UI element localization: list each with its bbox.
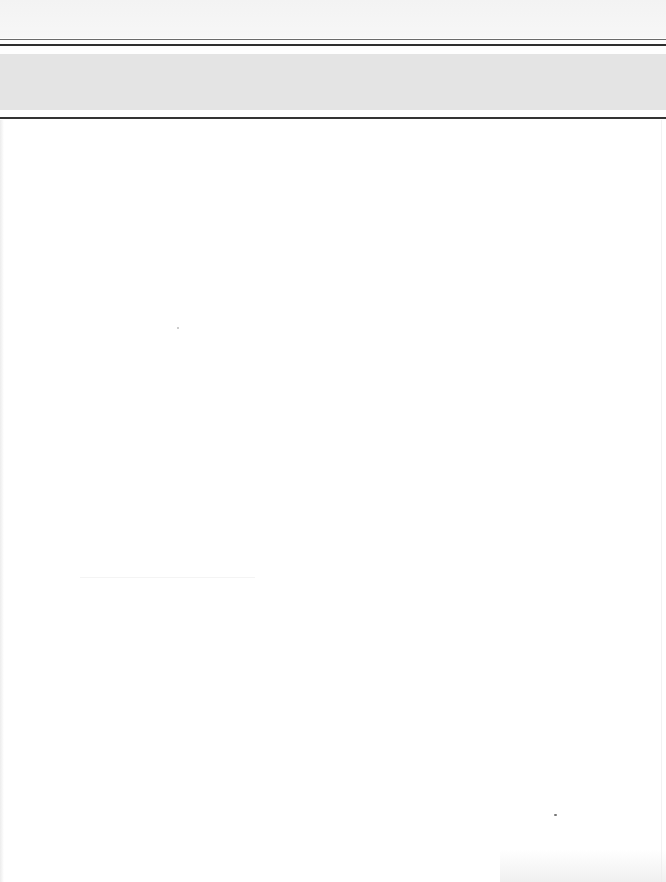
top-margin-strip xyxy=(0,0,666,38)
header-rule-thin xyxy=(0,39,666,40)
scan-speck xyxy=(177,327,179,329)
scan-speck xyxy=(554,814,557,816)
header-rule-thick xyxy=(0,44,666,46)
header-bottom-rule xyxy=(0,117,666,119)
faint-scan-line xyxy=(80,577,255,578)
page-edge-left xyxy=(0,120,4,882)
page-body xyxy=(0,120,666,882)
bleed-through-mark xyxy=(500,850,666,882)
document-page xyxy=(0,0,666,882)
page-edge-right xyxy=(661,120,662,882)
header-shaded-band xyxy=(0,54,666,110)
